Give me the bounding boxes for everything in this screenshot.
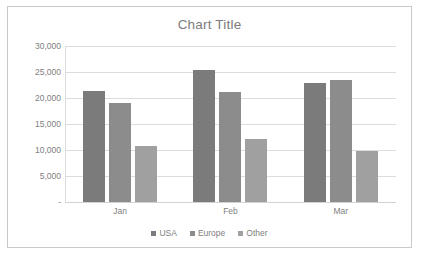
bar	[135, 146, 157, 202]
legend-swatch-icon	[190, 231, 195, 236]
bar	[193, 70, 215, 202]
plot-area	[65, 46, 396, 202]
bar	[219, 92, 241, 202]
bar	[330, 80, 352, 202]
legend-label: Europe	[198, 228, 225, 238]
bar-group	[65, 46, 175, 202]
bar-group	[175, 46, 285, 202]
y-axis-tick-label: 15,000	[13, 119, 61, 129]
legend-label: USA	[159, 228, 176, 238]
bar	[245, 139, 267, 202]
y-axis-tick-label: 30,000	[13, 41, 61, 51]
y-axis-tick-label: 5,000	[13, 171, 61, 181]
legend-item[interactable]: Other	[238, 228, 267, 238]
y-axis-tick-label: -	[13, 197, 61, 207]
legend-swatch-icon	[151, 231, 156, 236]
bar-group	[286, 46, 396, 202]
y-axis-tick-label: 25,000	[13, 67, 61, 77]
legend-swatch-icon	[238, 231, 243, 236]
legend-item[interactable]: Europe	[190, 228, 225, 238]
y-axis-tick-labels: 30,00025,00020,00015,00010,0005,000-	[8, 46, 61, 203]
chart-title: Chart Title	[8, 17, 411, 32]
bar	[83, 91, 105, 202]
x-axis-baseline	[65, 202, 396, 203]
x-axis-tick-label: Jan	[65, 206, 175, 216]
legend-item[interactable]: USA	[151, 228, 176, 238]
legend-label: Other	[246, 228, 267, 238]
bar	[304, 83, 326, 202]
bar	[356, 151, 378, 202]
chart-container: Chart Title 30,00025,00020,00015,00010,0…	[7, 6, 412, 248]
x-axis-tick-label: Feb	[175, 206, 285, 216]
chart-legend: USAEuropeOther	[8, 228, 411, 238]
y-axis-tick-label: 10,000	[13, 145, 61, 155]
bar	[109, 103, 131, 202]
y-axis-tick-label: 20,000	[13, 93, 61, 103]
x-axis-tick-label: Mar	[286, 206, 396, 216]
x-axis-tick-labels: JanFebMar	[65, 206, 396, 222]
